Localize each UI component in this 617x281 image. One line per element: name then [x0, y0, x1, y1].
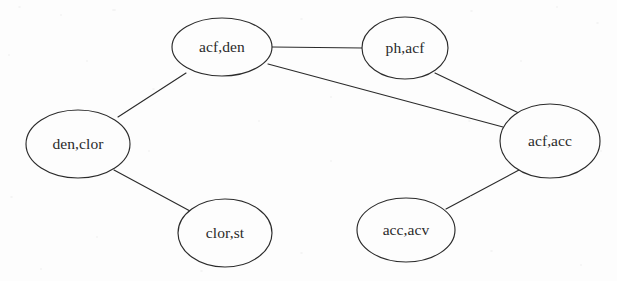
graph-edge-acf_den-den_clor — [118, 73, 186, 117]
graph-edge-acf_acc-acc_acv — [446, 170, 519, 209]
graph-canvas: acf,denph,acfden,cloracf,accclor,stacc,a… — [0, 0, 617, 281]
node-label-clor_st: clor,st — [206, 224, 245, 241]
node-label-acf_den: acf,den — [199, 38, 245, 55]
graph-node-clor_st[interactable]: clor,st — [178, 199, 272, 267]
graph-node-acf_acc[interactable]: acf,acc — [500, 104, 600, 178]
edge-layer — [114, 47, 523, 211]
graph-node-acf_den[interactable]: acf,den — [172, 18, 272, 76]
node-label-acc_acv: acc,acv — [383, 221, 430, 238]
graph-edge-acf_den-ph_acf — [272, 47, 363, 48]
node-label-acf_acc: acf,acc — [528, 132, 572, 149]
graph-edge-ph_acf-acf_acc — [435, 73, 523, 115]
graph-node-den_clor[interactable]: den,clor — [26, 110, 130, 178]
graph-edge-den_clor-clor_st — [114, 170, 190, 211]
graph-node-ph_acf[interactable]: ph,acf — [362, 17, 448, 79]
node-label-den_clor: den,clor — [52, 135, 104, 152]
node-label-ph_acf: ph,acf — [386, 39, 426, 56]
graph-diagram: acf,denph,acfden,cloracf,accclor,stacc,a… — [0, 0, 617, 281]
graph-node-acc_acv[interactable]: acc,acv — [357, 198, 455, 262]
node-layer: acf,denph,acfden,cloracf,accclor,stacc,a… — [26, 17, 600, 267]
